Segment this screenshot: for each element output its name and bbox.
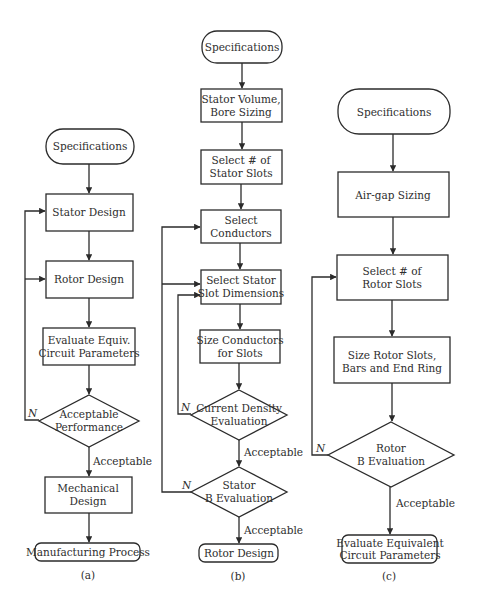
panel-c: Specifications Air-gap Sizing Select # o…: [312, 89, 455, 582]
b-stator-b-line2: B Evaluation: [205, 492, 273, 504]
c-select-rotor-slots-line2: Rotor Slots: [362, 278, 422, 290]
c-airgap-sizing-label: Air-gap Sizing: [354, 189, 431, 201]
c-evaluate-equivalent-line1: Evaluate Equivalent: [336, 537, 444, 549]
b-rotor-design-label: Rotor Design: [204, 547, 274, 559]
a-specifications-label: Specifications: [53, 140, 128, 152]
c-size-rotor-slots-line2: Bars and End Ring: [342, 362, 442, 374]
a-decision-line1: Acceptable: [58, 408, 118, 420]
loop-b-inner-to-slotdims: [178, 295, 200, 414]
loop-c-to-rotor-slots: [312, 277, 336, 455]
a-mechanical-line1: Mechanical: [57, 482, 119, 494]
loop-a-to-stator: [25, 211, 45, 420]
a-caption: (a): [81, 569, 95, 581]
a-no-label: N: [27, 407, 38, 419]
b-no-label-2: N: [181, 479, 192, 491]
b-select-stator-slots-line2: Stator Slots: [209, 167, 272, 179]
c-size-rotor-slots-line1: Size Rotor Slots,: [348, 349, 437, 361]
c-no-label: N: [315, 442, 326, 454]
c-select-rotor-slots-line1: Select # of: [363, 265, 423, 277]
b-select-slot-dimensions-line2: Slot Dimensions: [198, 287, 284, 299]
b-caption: (b): [231, 570, 246, 582]
c-rotor-b-line2: B Evaluation: [357, 455, 425, 467]
c-caption: (c): [382, 570, 396, 582]
c-rotor-b-line1: Rotor: [376, 442, 407, 454]
a-stator-design-label: Stator Design: [52, 206, 126, 218]
a-manufacturing-label: Manufacturing Process: [26, 546, 150, 558]
panel-a: Specifications Stator Design Rotor Desig…: [25, 129, 152, 581]
a-mechanical-line2: Design: [70, 495, 107, 507]
a-rotor-design-label: Rotor Design: [54, 273, 124, 285]
loop-b-outer-to-conductors: [162, 227, 200, 492]
b-select-slot-dimensions-line1: Select Stator: [206, 274, 277, 286]
a-acceptable-label: Acceptable: [92, 455, 152, 467]
b-specifications-label: Specifications: [205, 41, 280, 53]
flowchart-figure: Specifications Stator Design Rotor Desig…: [0, 0, 479, 609]
b-select-conductors-line2: Conductors: [210, 227, 271, 239]
c-evaluate-equivalent-line2: Circuit Parameters: [339, 549, 440, 561]
b-stator-volume-line1: Stator Volume,: [201, 93, 280, 105]
b-current-density-line1: Current Density: [196, 402, 282, 414]
b-stator-volume-line2: Bore Sizing: [210, 106, 272, 118]
b-no-label-1: N: [180, 401, 191, 413]
b-size-conductors-line2: for Slots: [217, 347, 262, 359]
a-decision-line2: Performance: [55, 421, 123, 433]
b-select-stator-slots-line1: Select # of: [212, 154, 272, 166]
b-size-conductors-line1: Size Conductors: [196, 334, 283, 346]
b-select-conductors-line1: Select: [224, 214, 258, 226]
a-evaluate-equiv-line2: Circuit Parameters: [38, 347, 139, 359]
b-acceptable-label-1: Acceptable: [243, 446, 303, 458]
panel-b: Specifications Stator Volume, Bore Sizin…: [162, 31, 303, 582]
c-acceptable-label: Acceptable: [395, 497, 455, 509]
b-acceptable-label-2: Acceptable: [243, 524, 303, 536]
a-evaluate-equiv-line1: Evaluate Equiv.: [48, 334, 131, 346]
b-stator-b-line1: Stator: [222, 479, 256, 491]
c-specifications-label: Specifications: [357, 106, 432, 118]
b-current-density-line2: Evaluation: [211, 415, 268, 427]
